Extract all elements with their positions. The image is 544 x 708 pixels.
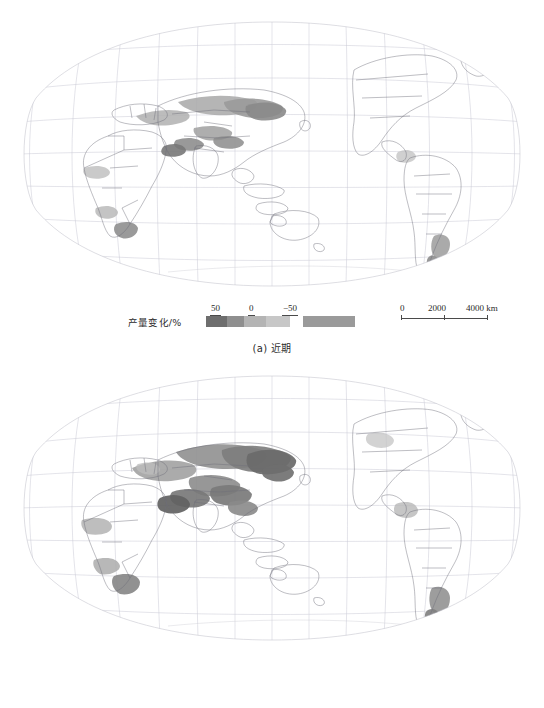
legend-ramp-swatch-1-a [206,316,227,327]
scale-bar-tick-1-a [444,315,445,320]
scale-label-4000-a: 4000 km [466,303,498,314]
world-map-a [18,18,526,290]
legend-ramp-swatch-2-a [227,316,244,327]
scale-bar-tick-0-a [401,315,402,320]
legend-extra-swatch-a [303,316,355,327]
scale-bar-tick-2-a [487,315,488,320]
legend-tick-labels-a: 50 0 −50 [196,303,376,316]
scale-label-0-a: 0 [400,303,405,314]
legend-ramp-swatch-4-a [266,316,290,327]
world-map-b [18,372,526,644]
legend-ramp-swatch-3-a [244,316,267,327]
legend-tick-0-a: 0 [248,303,255,316]
legend-tick-minus50-a: −50 [282,303,298,316]
legend-tick-50-a: 50 [210,303,221,316]
world-map-svg-b [18,372,526,644]
scale-bar-labels-a: 0 2000 4000 km [400,303,530,316]
panel-caption-a: (a) 近期 [0,340,544,355]
scale-label-2000-a: 2000 [428,303,446,314]
legend-title-a: 产量变化/% [128,315,181,329]
figure-container: 50 0 −50 产量变化/% 0 2000 4000 km [0,0,544,708]
legend-color-ramp-a [206,316,290,327]
world-map-svg-a [18,18,526,290]
scale-bar-a: 0 2000 4000 km [400,303,530,331]
yield-change-shading-a [83,96,450,276]
yield-change-shading-b [81,432,450,633]
map-panel-b: 50 0 −50 产量变化/% 0 2000 4000 km [0,362,544,708]
map-panel-a: 50 0 −50 产量变化/% 0 2000 4000 km [0,0,544,362]
coastlines-a [83,47,494,272]
